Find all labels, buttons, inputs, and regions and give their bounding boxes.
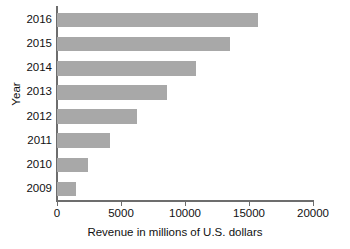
bar-row <box>57 61 313 75</box>
x-tick-mark <box>121 201 122 206</box>
x-axis-title: Revenue in millions of U.S. dollars <box>0 226 350 238</box>
bar-2009 <box>57 182 76 196</box>
bar-2012 <box>57 109 137 123</box>
bar-row <box>57 37 313 51</box>
plot-area <box>57 8 313 201</box>
x-tick-label: 0 <box>54 208 60 220</box>
bar-2010 <box>57 158 88 172</box>
y-tick-label-2012: 2012 <box>0 111 52 123</box>
x-tick-mark <box>313 201 314 206</box>
y-tick-label-2009: 2009 <box>0 183 52 195</box>
y-tick-label-2014: 2014 <box>0 62 52 74</box>
x-tick-mark <box>249 201 250 206</box>
bar-row <box>57 133 313 147</box>
bar-2016 <box>57 13 258 27</box>
x-tick-label: 20000 <box>297 208 329 220</box>
x-tick-label: 15000 <box>233 208 265 220</box>
bar-row <box>57 109 313 123</box>
bar-2015 <box>57 37 230 51</box>
x-tick-mark <box>185 201 186 206</box>
x-tick-label: 5000 <box>108 208 134 220</box>
bar-2013 <box>57 85 167 99</box>
bar-chart: Year 20162015201420132012201120102009 05… <box>0 0 350 249</box>
bar-row <box>57 182 313 196</box>
bar-2011 <box>57 133 110 147</box>
bar-row <box>57 13 313 27</box>
y-tick-label-2011: 2011 <box>0 135 52 147</box>
y-tick-label-2013: 2013 <box>0 86 52 98</box>
bar-row <box>57 158 313 172</box>
bar-2014 <box>57 61 196 75</box>
y-tick-label-2015: 2015 <box>0 38 52 50</box>
y-tick-label-2010: 2010 <box>0 159 52 171</box>
y-tick-label-2016: 2016 <box>0 14 52 26</box>
x-tick-label: 10000 <box>169 208 201 220</box>
bar-row <box>57 85 313 99</box>
x-tick-mark <box>57 201 58 206</box>
